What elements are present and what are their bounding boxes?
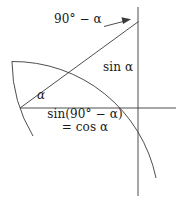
base-angle-label: α — [37, 89, 45, 102]
complement-angle-label: 90° − α — [54, 13, 102, 26]
diagram-canvas — [0, 0, 177, 199]
horizontal-leg-label-group: sin(90° − α) = cos α — [44, 108, 126, 133]
left-arc-fragment — [12, 62, 33, 136]
horizontal-leg-label-line1: sin(90° − α) — [47, 107, 122, 121]
vertical-leg-label: sin α — [103, 61, 133, 74]
horizontal-leg-label-line2: = cos α — [44, 121, 126, 134]
trig-diagram-figure: 90° − α sin α α sin(90° − α) = cos α — [0, 0, 177, 199]
leader-arrowhead-icon — [122, 17, 132, 24]
